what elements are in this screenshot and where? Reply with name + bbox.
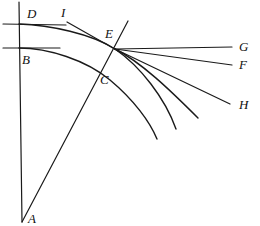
figure-canvas (0, 0, 260, 226)
ray-E-to-G (115, 47, 232, 49)
curve-D-to-E-extended (19, 24, 176, 129)
geometry-figure: ABCDEFGHI (0, 0, 260, 226)
point-label-c: C (100, 73, 109, 86)
point-label-h: H (239, 98, 248, 111)
segments-group (3, 2, 232, 222)
point-label-f: F (239, 58, 247, 71)
point-label-d: D (27, 7, 36, 20)
vertical-axis (19, 2, 22, 222)
point-label-b: B (22, 53, 30, 66)
point-label-a: A (28, 212, 36, 225)
point-label-g: G (239, 40, 248, 53)
point-label-i: I (61, 6, 65, 19)
point-label-e: E (105, 27, 113, 40)
line-A-through-E (22, 21, 128, 222)
